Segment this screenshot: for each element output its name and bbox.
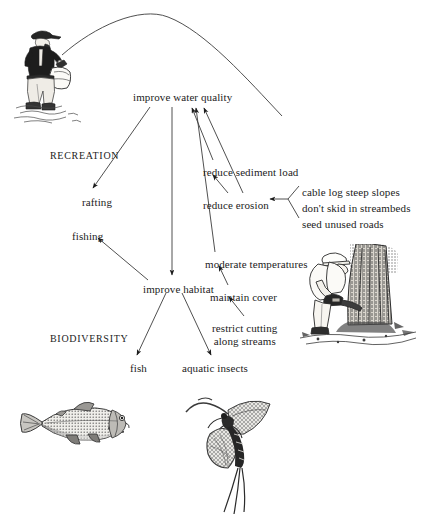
node-improve-water-quality[interactable]: improve water quality: [133, 91, 232, 103]
node-reduce-erosion[interactable]: reduce erosion: [203, 199, 269, 211]
edge-erosion-to-water: [204, 108, 243, 193]
mayfly-illustration: [184, 390, 284, 516]
node-fish[interactable]: fish: [130, 362, 147, 374]
node-cable-log-steep-slopes[interactable]: cable log steep slopes: [302, 186, 400, 198]
practices-bracket: [288, 186, 299, 218]
node-restrict-cutting-along-streams[interactable]: restrict cutting along streams: [212, 322, 277, 348]
node-improve-habitat[interactable]: improve habitat: [143, 283, 214, 295]
edge-water-to-rafting: [93, 107, 150, 188]
edge-habitat-to-fishing: [98, 238, 148, 280]
node-moderate-temperatures[interactable]: moderate temperatures: [205, 258, 308, 270]
edge-sediment-to-water: [192, 108, 213, 160]
node-aquatic-insects[interactable]: aquatic insects: [182, 362, 248, 374]
group-label-biodiversity: BIODIVERSITY: [50, 333, 128, 344]
node-dont-skid-in-streambeds[interactable]: don't skid in streambeds: [302, 202, 411, 214]
trout-illustration: [20, 392, 130, 466]
edge-habitat-to-insects: [182, 293, 211, 355]
node-seed-unused-roads[interactable]: seed unused roads: [302, 218, 384, 230]
fly-fisherman-wading-illustration: [12, 22, 86, 124]
edge-habitat-to-fish: [137, 293, 166, 355]
logger-felling-tree-illustration: [298, 244, 420, 356]
node-fishing[interactable]: fishing: [72, 230, 103, 242]
diagram-canvas: RECREATION BIODIVERSITY improve water qu…: [0, 0, 440, 526]
node-reduce-sediment-load[interactable]: reduce sediment load: [203, 166, 298, 178]
node-rafting[interactable]: rafting: [82, 196, 112, 208]
node-maintain-cover[interactable]: maintain cover: [210, 291, 277, 303]
group-label-recreation: RECREATION: [50, 150, 119, 161]
edge-temperatures-to-water: [196, 108, 215, 252]
